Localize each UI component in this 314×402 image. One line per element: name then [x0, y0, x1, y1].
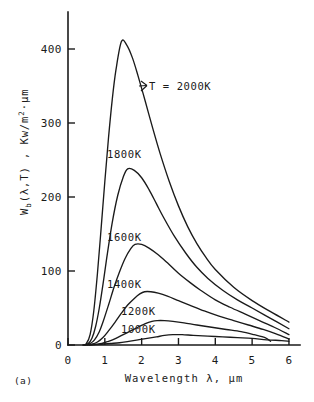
svg-text:Wavelength λ, μm: Wavelength λ, μm	[125, 372, 244, 384]
x-ticklabel-5: 5	[249, 354, 256, 367]
y-ticklabel-100: 100	[41, 265, 62, 278]
curve-label-T-2000K: T = 2000K	[149, 80, 211, 92]
y-axis-tick-labels: 0100200300400	[41, 43, 62, 352]
figure-caption: (a)	[14, 375, 32, 386]
ylabel-head: W	[18, 208, 30, 215]
curve-annotations-group: T = 2000K1800K1600K1400K1200K1000K	[107, 80, 211, 335]
y-ticklabel-300: 300	[41, 117, 62, 130]
y-axis-title: Wb(λ,T) , Kw/m2·μm	[17, 89, 33, 215]
x-axis-title: Wavelength λ, μm	[125, 372, 244, 384]
curve-label-1000K: 1000K	[121, 323, 156, 335]
curve-label-1200K: 1200K	[121, 305, 156, 317]
x-ticklabel-6: 6	[285, 354, 292, 367]
y-ticklabel-200: 200	[41, 191, 62, 204]
xlabel-word: Wavelength	[125, 372, 199, 384]
axes-group	[68, 12, 300, 345]
chart-canvas: 0100200300400 0123456 T = 2000K1800K1600…	[0, 0, 314, 402]
blackbody-spectral-radiance-figure: 0100200300400 0123456 T = 2000K1800K1600…	[0, 0, 314, 402]
curve-1800K	[83, 168, 288, 345]
x-ticklabel-1: 1	[101, 354, 108, 367]
ylabel-tail: ·μm	[18, 89, 30, 111]
x-ticklabel-3: 3	[175, 354, 182, 367]
y-ticklabel-0: 0	[55, 339, 62, 352]
ylabel-args: (λ,T) , Kw/m	[18, 116, 30, 203]
svg-text:Wb(λ,T) , Kw/m2·μm: Wb(λ,T) , Kw/m2·μm	[17, 89, 33, 215]
y-axis-ticks	[68, 49, 75, 345]
curve-label-1600K: 1600K	[107, 231, 142, 243]
x-ticklabel-0: 0	[64, 354, 71, 367]
x-axis-tick-labels: 0123456	[64, 354, 292, 367]
curve-1400K	[86, 291, 289, 345]
curve-label-1800K: 1800K	[107, 148, 142, 160]
x-ticklabel-4: 4	[212, 354, 219, 367]
xlabel-unit: μm	[229, 372, 244, 384]
x-ticklabel-2: 2	[138, 354, 145, 367]
curve-1600K	[85, 244, 289, 345]
curve-label-1400K: 1400K	[107, 278, 142, 290]
xlabel-symbol: λ,	[206, 372, 221, 384]
y-ticklabel-400: 400	[41, 43, 62, 56]
